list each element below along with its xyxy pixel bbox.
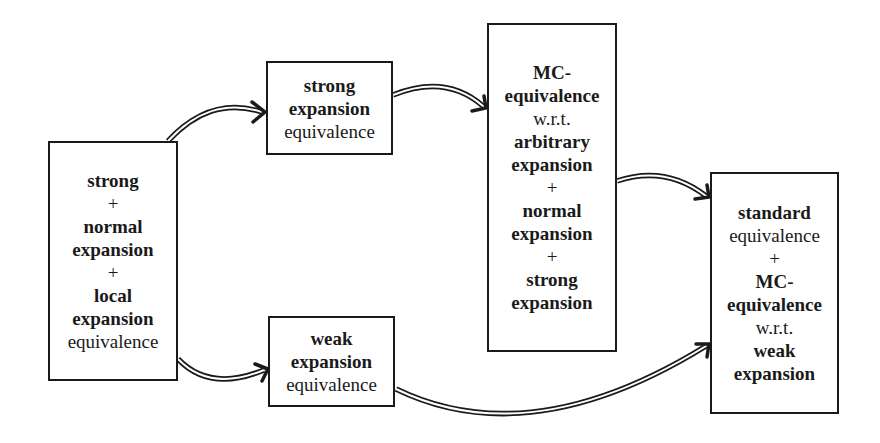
node-strong-expansion-equivalence: strong expansion equivalence: [266, 61, 393, 155]
edge-left-to-weak-expansion: [178, 359, 268, 381]
node-line: local: [94, 284, 132, 307]
node-mc-equivalence-arbitrary-expansion: MC- equivalence w.r.t. arbitrary expansi…: [487, 23, 617, 352]
node-line: expansion: [72, 238, 153, 261]
node-line: expansion: [289, 97, 370, 120]
node-line: equivalence: [286, 373, 377, 396]
edge-mc-arbitrary-to-standard: [617, 176, 709, 199]
arrowhead-icon: [696, 344, 709, 357]
node-line: equivalence: [505, 84, 600, 107]
node-line: +: [547, 176, 558, 199]
node-line: arbitrary: [514, 130, 590, 153]
node-line: w.r.t.: [533, 107, 570, 130]
node-line: MC-: [756, 270, 794, 293]
node-line: equivalence: [729, 224, 820, 247]
node-line: normal: [83, 215, 142, 238]
node-line: equivalence: [727, 293, 822, 316]
implication-diagram: strong + normal expansion + local expans…: [0, 0, 880, 443]
node-weak-expansion-equivalence: weak expansion equivalence: [268, 316, 395, 407]
node-line: strong: [526, 268, 577, 291]
node-line: strong: [87, 169, 138, 192]
node-standard-equivalence-mc-weak-expansion: standard equivalence + MC- equivalence w…: [710, 172, 839, 414]
node-line: weak: [753, 339, 795, 362]
node-line: MC-: [533, 61, 571, 84]
node-line: expansion: [511, 291, 592, 314]
arrowhead-icon: [472, 96, 486, 111]
node-line: +: [108, 192, 119, 215]
node-line: equivalence: [68, 330, 159, 353]
node-line: expansion: [291, 350, 372, 373]
node-line: +: [769, 247, 780, 270]
node-line: strong: [304, 74, 355, 97]
node-line: expansion: [511, 153, 592, 176]
node-line: standard: [738, 201, 811, 224]
node-line: equivalence: [284, 120, 375, 143]
arrowhead-icon: [252, 102, 265, 122]
node-line: +: [108, 261, 119, 284]
arrowhead-icon: [695, 185, 709, 199]
node-line: w.r.t.: [756, 316, 793, 339]
node-strong-normal-local-expansion-equivalence: strong + normal expansion + local expans…: [48, 141, 178, 381]
node-line: normal: [522, 199, 581, 222]
node-line: expansion: [72, 307, 153, 330]
node-line: expansion: [734, 362, 815, 385]
node-line: +: [547, 245, 558, 268]
edge-left-to-strong-expansion: [168, 102, 265, 141]
edge-strong-expansion-to-mc-arbitrary: [393, 87, 486, 111]
edge-weak-expansion-to-standard: [396, 344, 709, 414]
node-line: expansion: [511, 222, 592, 245]
arrowhead-icon: [255, 364, 268, 381]
node-line: weak: [310, 327, 352, 350]
